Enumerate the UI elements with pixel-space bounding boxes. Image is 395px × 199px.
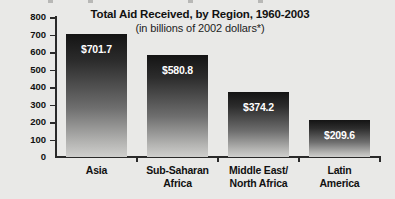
y-tick-label: 600 xyxy=(10,47,46,57)
category-label-line: North Africa xyxy=(218,177,299,190)
y-tick-label: 0 xyxy=(10,152,46,162)
bar-chart: Total Aid Received, by Region, 1960-2003… xyxy=(0,0,395,199)
bar[interactable]: $209.6 xyxy=(309,120,370,157)
category-label: Asia xyxy=(56,164,137,177)
y-tick-label: 200 xyxy=(10,117,46,127)
x-tick-mark xyxy=(217,157,219,162)
bar-value-label: $209.6 xyxy=(309,129,370,141)
x-tick-mark xyxy=(136,157,138,162)
category-label-line: Asia xyxy=(56,164,137,177)
bar-value-label: $374.2 xyxy=(228,101,289,113)
bar[interactable]: $580.8 xyxy=(147,55,208,157)
y-tick-label: 800 xyxy=(10,12,46,22)
y-tick-label: 100 xyxy=(10,135,46,145)
plot-area: $701.7$580.8$374.2$209.6 xyxy=(56,17,380,157)
y-tick-label: 700 xyxy=(10,30,46,40)
category-label-line: Latin xyxy=(299,164,380,177)
x-tick-mark xyxy=(379,157,381,162)
category-label-line: Middle East/ xyxy=(218,164,299,177)
category-label-line: Sub-Saharan xyxy=(137,164,218,177)
x-tick-mark xyxy=(298,157,300,162)
category-label-line: America xyxy=(299,177,380,190)
category-label: LatinAmerica xyxy=(299,164,380,190)
bar[interactable]: $701.7 xyxy=(66,34,127,157)
y-tick-label: 300 xyxy=(10,100,46,110)
category-label: Sub-SaharanAfrica xyxy=(137,164,218,190)
y-tick-label: 500 xyxy=(10,65,46,75)
bar[interactable]: $374.2 xyxy=(228,92,289,157)
category-label: Middle East/North Africa xyxy=(218,164,299,190)
category-label-line: Africa xyxy=(137,177,218,190)
bar-value-label: $701.7 xyxy=(66,43,127,55)
bar-value-label: $580.8 xyxy=(147,64,208,76)
y-tick-label: 400 xyxy=(10,82,46,92)
